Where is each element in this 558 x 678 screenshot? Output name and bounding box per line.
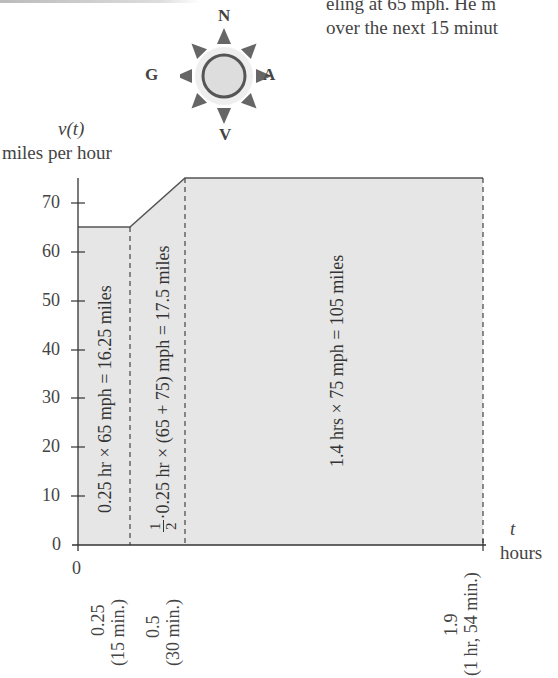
y-tick-30: 30 — [42, 387, 60, 408]
x-tick-0.25-sub: (15 min.) — [108, 599, 128, 666]
y-tick-50: 50 — [42, 290, 60, 311]
x-tick-0.5: 0.5 (30 min.) — [143, 570, 193, 678]
x-tick-0.25-value: 0.25 — [88, 599, 108, 666]
y-tick-10: 10 — [42, 485, 60, 506]
x-tick-1.9-sub: (1 hr, 54 min.) — [461, 572, 481, 676]
x-tick-0.5-sub: (30 min.) — [163, 599, 183, 666]
x-tick-1.9-value: 1.9 — [441, 572, 461, 676]
y-tick-70: 70 — [42, 192, 60, 213]
y-tick-60: 60 — [42, 241, 60, 262]
x-tick-0: 0 — [72, 558, 81, 579]
y-tick-40: 40 — [42, 339, 60, 360]
fraction-one-half: 1 2 — [148, 521, 179, 533]
x-axis-title: hours — [500, 542, 542, 564]
x-tick-1.9: 1.9 (1 hr, 54 min.) — [441, 560, 491, 678]
area-fill — [78, 178, 483, 545]
x-tick-0.5-value: 0.5 — [143, 599, 163, 666]
y-tick-0: 0 — [52, 534, 61, 555]
x-tick-0.25: 0.25 (15 min.) — [88, 570, 138, 678]
x-axis-title-variable: t — [510, 518, 515, 540]
y-tick-20: 20 — [42, 436, 60, 457]
